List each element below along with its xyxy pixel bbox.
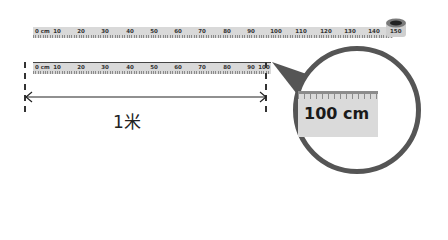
magnified-tape: 100 cm (298, 91, 378, 137)
tape-ticks (298, 94, 378, 99)
magnified-label: 100 cm (304, 104, 369, 123)
meter-label: 1米 (113, 108, 141, 133)
